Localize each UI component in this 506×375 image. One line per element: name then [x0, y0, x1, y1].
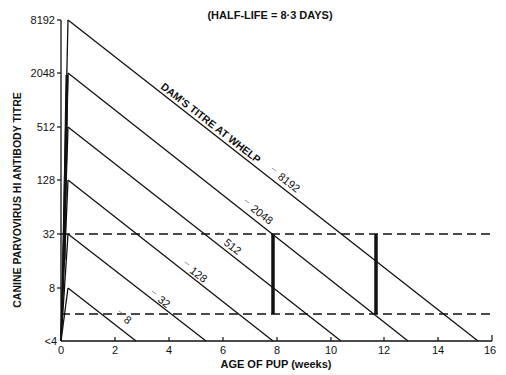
- rise-bundle: [64, 75, 67, 260]
- series-label-512: 512: [222, 236, 244, 257]
- chart-title: (HALF-LIFE = 8·3 DAYS): [207, 9, 333, 21]
- series-label-32: 32: [156, 293, 173, 310]
- x-tick-label: 14: [432, 344, 444, 356]
- series-label-2048: 2048: [249, 202, 276, 227]
- x-tick-label: 6: [220, 344, 226, 356]
- x-tick-label: 10: [325, 344, 337, 356]
- series-line-2048: [68, 73, 408, 341]
- y-tick-label: 8192: [31, 14, 55, 26]
- x-tick-label: 12: [378, 344, 390, 356]
- series-label-128: 128: [188, 264, 210, 285]
- y-tick-label: 128: [37, 174, 55, 186]
- x-tick-label: 16: [484, 344, 496, 356]
- axes: [61, 20, 492, 341]
- x-tick-label: 0: [58, 344, 64, 356]
- x-tick-label: 2: [112, 344, 118, 356]
- dam-titre-annotation: DAM'S TITRE AT WHELP: [159, 80, 264, 165]
- x-tick-label: 4: [166, 344, 172, 356]
- y-axis-label: CANINE PARVOVIRUS HI ANTIBODY TITRE: [11, 92, 23, 307]
- series-label-8192: 8192: [276, 170, 303, 195]
- y-tick-labels: 8192 2048 512 128 32 8 <4: [31, 14, 57, 347]
- series-line-128: [68, 180, 273, 341]
- series-labels: 8 32 128 512 2048 8192: [122, 170, 303, 326]
- titre-decline-chart: (HALF-LIFE = 8·3 DAYS) CANINE PARVOVIRUS…: [0, 0, 506, 375]
- x-tick-labels: 0 2 4 6 8 10 12 14 16: [58, 344, 496, 356]
- x-tick-label: 8: [274, 344, 280, 356]
- series-line-32: [68, 234, 206, 341]
- x-ticks: [115, 335, 492, 341]
- y-tick-label: 8: [49, 282, 55, 294]
- series-label-8: 8: [122, 313, 134, 326]
- x-axis-label: AGE OF PUP (weeks): [220, 358, 331, 370]
- y-tick-label: 32: [43, 228, 55, 240]
- y-tick-label: 2048: [31, 67, 55, 79]
- y-tick-label: 512: [37, 121, 55, 133]
- y-tick-label: <4: [44, 335, 57, 347]
